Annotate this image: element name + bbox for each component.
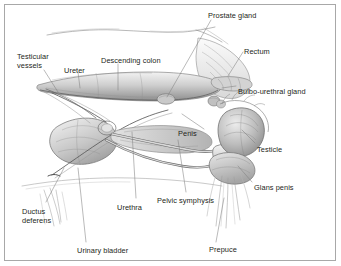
- label-rectum: Rectum: [244, 47, 270, 56]
- leader-penis: [182, 114, 204, 129]
- label-testicle: Testicle: [257, 145, 282, 154]
- figure-panel: Prostate gland Rectum Bulbo-urethral gla…: [0, 0, 341, 266]
- label-glans-penis: Glans penis: [254, 183, 294, 192]
- label-bulbo-urethral-gland: Bulbo-urethral gland: [238, 87, 306, 96]
- label-urethra: Urethra: [117, 203, 142, 212]
- label-descending-colon: Descending colon: [101, 56, 161, 65]
- label-prepuce: Prepuce: [209, 245, 237, 254]
- label-ductus-deferens: Ductus deferens: [22, 207, 51, 225]
- leader-prepuce: [216, 198, 224, 242]
- label-urinary-bladder: Urinary bladder: [77, 246, 128, 255]
- label-pelvic-symphysis: Pelvic symphysis: [157, 196, 214, 205]
- prostate-gland: [157, 94, 175, 104]
- ventral-body-wall: [22, 178, 222, 189]
- label-prostate-gland: Prostate gland: [208, 11, 256, 20]
- label-testicular-vessels: Testicular vessels: [17, 52, 49, 70]
- anatomical-illustration: [0, 0, 341, 266]
- label-ureter: Ureter: [64, 66, 85, 75]
- descending-colon: [37, 72, 221, 101]
- label-penis: Penis: [178, 129, 197, 138]
- scrotum-neck: [209, 153, 255, 185]
